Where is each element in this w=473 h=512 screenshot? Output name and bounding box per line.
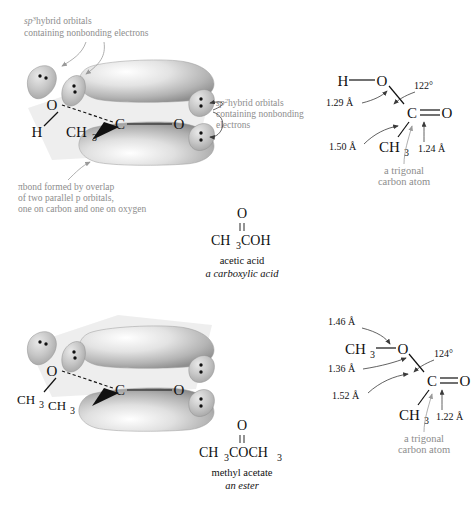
atom-label-ch3-sub: 3 xyxy=(92,132,97,143)
lone-pair-dot xyxy=(38,340,41,343)
annotation-pi-line2: of two parallel p orbitals, xyxy=(18,193,114,203)
atom-label-o-carbonyl: O xyxy=(174,382,185,398)
pi-line1-text: bond formed by overlap xyxy=(23,182,115,192)
acetic-acid-orbital-diagram: O H CH 3 C O xyxy=(27,60,214,165)
annotation-sp3-line1: sp3hybrid orbitals xyxy=(24,15,92,27)
compound-class: an ester xyxy=(225,480,259,491)
sp3-prefix-base: sp xyxy=(24,16,33,26)
atom-label-ch3-base: CH xyxy=(66,124,87,140)
annotation-pi-line3: one on carbon and one on oxygen xyxy=(18,204,146,214)
atom-label-o-hydroxyl: O xyxy=(47,97,58,113)
atom-label-ch3-wedge: CH 3 xyxy=(48,398,75,416)
bond-c-ch3 xyxy=(418,390,429,405)
formula-carbonyl-o: O xyxy=(237,206,247,221)
methyl-acetate-formula-block: O CH 3 COCH 3 methyl acetate an ester xyxy=(199,418,282,491)
trigonal-note-line1: a trigonal xyxy=(404,433,444,444)
leader-bond-angle xyxy=(394,92,415,104)
formula-tail-sub: 3 xyxy=(277,452,282,463)
lone-pair-dot xyxy=(199,97,202,100)
leader-bond-length-1 xyxy=(362,91,387,103)
lone-pair-dot xyxy=(72,84,75,87)
structure-atom-ch3-left: CH 3 xyxy=(345,341,375,360)
lone-pair-dot xyxy=(199,363,202,366)
structure-ch3-base: CH xyxy=(379,139,400,155)
annotation-sp2-hybrid-orbitals: sp2hybrid orbitals containing nonbonding… xyxy=(210,97,304,138)
formula-tail: COH xyxy=(241,233,271,248)
atom-label-ch3-sub: 3 xyxy=(70,405,75,416)
annotation-sp2-line1: sp2hybrid orbitals xyxy=(216,97,284,109)
structure-atom-c: C xyxy=(407,105,417,121)
bond-c-ch3 xyxy=(398,122,409,137)
atom-label-ch3-o-base: CH xyxy=(17,392,35,407)
acetic-acid-formula-block: O CH 3 COH acetic acid a carboxylic acid xyxy=(206,206,280,279)
formula-base: CH xyxy=(211,233,230,248)
atom-label-h: H xyxy=(32,124,43,140)
formula-tail: COCH xyxy=(229,445,268,460)
formula-base: CH xyxy=(199,445,218,460)
structure-atom-o-carbonyl: O xyxy=(442,105,453,121)
leader-bond-length-1 xyxy=(362,328,390,344)
trigonal-note-line2: carbon atom xyxy=(398,444,450,455)
lone-pair-dot xyxy=(44,76,47,79)
atom-label-o-carbonyl: O xyxy=(174,116,185,132)
annotation-sp2-line3: electrons xyxy=(216,120,251,130)
lone-pair-dot xyxy=(199,131,202,134)
bond-length-o-c: 1.36 Å xyxy=(328,363,356,374)
trigonal-note-line1: a trigonal xyxy=(384,165,424,176)
formula-condensed: CH 3 COH xyxy=(211,233,271,251)
lone-pair-dot xyxy=(44,342,47,345)
bond-length-c-ch3: 1.50 Å xyxy=(329,141,357,152)
bond-angle-label: 124° xyxy=(434,348,453,359)
atom-label-ch3-on-oxygen: CH 3 xyxy=(17,392,44,410)
structure-atom-h: H xyxy=(338,73,349,89)
atom-label-o-ester: O xyxy=(47,363,58,379)
bond-length-c-double-o: 1.24 Å xyxy=(418,143,446,154)
leader-bond-angle xyxy=(414,360,434,372)
bond-angle-label: 122° xyxy=(414,80,433,91)
leader-trigonal-note xyxy=(424,394,432,432)
atom-label-ch3-base: CH xyxy=(48,398,66,413)
lone-pair-dot xyxy=(199,104,202,107)
lone-pair-dot xyxy=(199,370,202,373)
compound-class: a carboxylic acid xyxy=(206,268,280,279)
atom-label-c: C xyxy=(115,116,125,132)
lone-pair-dot xyxy=(72,350,75,353)
lone-pair-dot xyxy=(199,397,202,400)
structure-ch3-base: CH xyxy=(399,407,420,423)
acetic-acid-bond-parameter-structure: H O C O CH 3 122° 1.29 Å 1.50 Å 1.24 Å a… xyxy=(326,73,453,187)
structure-atom-c: C xyxy=(427,373,437,389)
formula-condensed: CH 3 COCH 3 xyxy=(199,445,282,463)
bond-length-c-double-o: 1.22 Å xyxy=(436,411,464,422)
lone-pair-dot xyxy=(199,138,202,141)
structure-atom-o-hydroxyl: O xyxy=(377,73,388,89)
annotation-pi-line1: πbond formed by overlap xyxy=(18,182,115,192)
lone-pair-dot xyxy=(73,90,76,93)
leader-trigonal-note xyxy=(404,126,412,164)
structure-left-ch3-sub: 3 xyxy=(370,349,375,360)
methyl-acetate-bond-parameter-structure: CH 3 O C O CH 3 124° 1.46 Å 1.36 Å 1.52 … xyxy=(328,316,471,455)
leader-bond-length-3 xyxy=(368,374,408,393)
structure-atom-o-ester: O xyxy=(398,341,409,357)
structure-left-ch3-base: CH xyxy=(345,341,366,357)
chemistry-figure: O H CH 3 C O sp3hybrid orbitals containi… xyxy=(0,0,473,512)
annotation-sp2-line2: containing nonbonding xyxy=(216,109,304,119)
methyl-acetate-orbital-diagram: O CH 3 CH 3 C O xyxy=(17,315,214,431)
structure-atom-o-carbonyl: O xyxy=(460,373,471,389)
annotation-pi-bond: πbond formed by overlap of two parallel … xyxy=(18,162,146,214)
leader-sp3-left xyxy=(62,42,86,66)
lone-pair-dot xyxy=(199,404,202,407)
formula-carbonyl-o: O xyxy=(237,418,247,433)
sp3-lone-pair-lobe-left xyxy=(27,66,56,99)
bond-length-o-h-to-c: 1.29 Å xyxy=(326,97,354,108)
annotation-sp3-line2: containing nonbonding electrons xyxy=(24,28,149,38)
sp3-line1-text: hybrid orbitals xyxy=(36,16,92,26)
lone-pair-dot xyxy=(73,356,76,359)
sp2-line1-text: hybrid orbitals xyxy=(228,98,284,108)
bond-length-c-ch3: 1.52 Å xyxy=(332,390,360,401)
bond-length-ch3-o: 1.46 Å xyxy=(328,316,356,327)
compound-name: methyl acetate xyxy=(212,467,273,478)
compound-name: acetic acid xyxy=(220,255,265,266)
atom-label-c: C xyxy=(115,382,125,398)
atom-label-ch3-o-sub: 3 xyxy=(39,399,44,410)
lone-pair-dot xyxy=(38,74,41,77)
